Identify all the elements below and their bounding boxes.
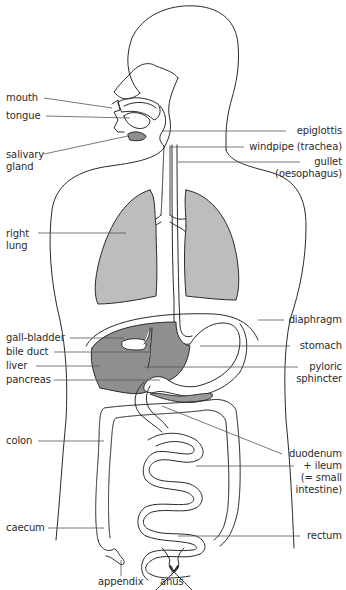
label-caecum: caecum: [6, 522, 45, 534]
label-gullet: gullet (oesophagus): [275, 156, 342, 180]
label-mouth: mouth: [6, 92, 38, 104]
trachea: [161, 146, 170, 215]
label-stomach: stomach: [300, 340, 342, 352]
label-duodenum-line1: duodenum: [289, 448, 342, 460]
digestive-system-diagram: [0, 0, 346, 590]
caecum-shape: [98, 540, 124, 565]
pharynx: [160, 106, 166, 146]
label-pyloric-line1: pyloric: [296, 361, 342, 373]
face-profile: [114, 64, 178, 99]
label-windpipe: windpipe (trachea): [249, 141, 342, 153]
label-gall-bladder: gall-bladder: [6, 332, 65, 344]
label-pancreas: pancreas: [6, 374, 51, 386]
label-anus: anus: [160, 576, 184, 588]
label-gullet-line1: gullet: [275, 156, 342, 168]
label-rectum: rectum: [307, 530, 342, 542]
left-lung-shape: [185, 190, 239, 300]
neck-back: [164, 78, 178, 148]
label-epiglottis: epiglottis: [297, 125, 342, 137]
label-duodenum-line2: + ileum: [289, 460, 342, 472]
label-right-lung: right lung: [6, 228, 29, 252]
palate: [124, 102, 156, 108]
colon-shape: [96, 399, 240, 546]
label-duodenum-ileum: duodenum + ileum (= small intestine): [289, 448, 342, 496]
label-right-lung-line1: right: [6, 228, 29, 240]
label-tongue: tongue: [6, 110, 41, 122]
leader-salivary: [44, 136, 128, 154]
label-diaphragm: diaphragm: [289, 314, 342, 326]
small-intestine-loops: [138, 433, 205, 580]
lips: [112, 100, 124, 132]
label-duodenum-line3: (= small: [289, 472, 342, 484]
label-salivary-line1: salivary: [6, 149, 44, 161]
label-salivary-line2: gland: [6, 161, 44, 173]
gall-bladder-shape: [122, 339, 146, 350]
anus-shape: [170, 566, 178, 572]
right-lung-shape: [95, 190, 157, 304]
label-liver: liver: [6, 360, 27, 372]
label-pyloric-line2: sphincter: [296, 373, 342, 385]
leader-duodenum: [162, 406, 282, 454]
leader-mouth: [44, 98, 112, 108]
label-appendix: appendix: [98, 576, 144, 588]
label-bile-duct: bile duct: [6, 346, 48, 358]
label-duodenum-line4: intestine): [289, 484, 342, 496]
salivary-gland-shape: [128, 132, 146, 141]
label-colon: colon: [6, 435, 32, 447]
head-outline: [128, 6, 239, 150]
liver-shape: [91, 322, 190, 394]
leader-tongue: [46, 116, 130, 118]
rectum-shape: [162, 548, 184, 572]
label-right-lung-line2: lung: [6, 240, 29, 252]
label-pyloric-sphincter: pyloric sphincter: [296, 361, 342, 385]
label-salivary-gland: salivary gland: [6, 149, 44, 173]
label-gullet-line2: (oesophagus): [275, 168, 342, 180]
